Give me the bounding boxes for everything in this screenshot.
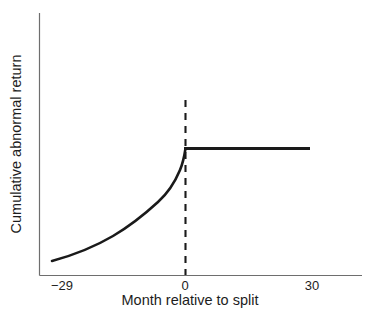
chart-figure: −29 0 30 Month relative to split Cumulat… <box>0 0 375 318</box>
x-tick-label-minus29: −29 <box>51 278 73 293</box>
x-axis-title: Month relative to split <box>121 292 258 308</box>
cumulative-return-curve <box>52 149 186 262</box>
chart-plot-area: −29 0 30 Month relative to split Cumulat… <box>0 0 375 318</box>
x-tick-label-zero: 0 <box>181 278 188 293</box>
x-tick-label-30: 30 <box>305 278 319 293</box>
y-axis-title: Cumulative abnormal return <box>8 55 24 234</box>
